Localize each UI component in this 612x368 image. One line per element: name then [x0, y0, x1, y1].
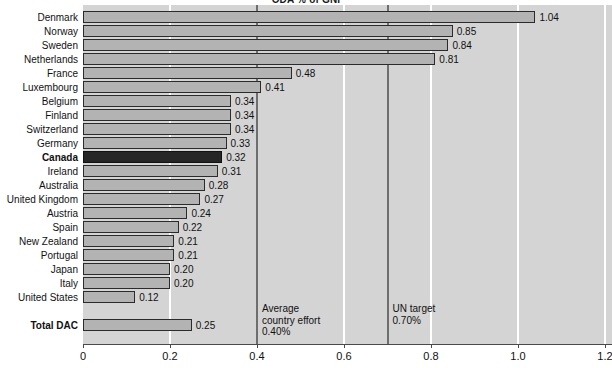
x-tick-label: 0.8 — [423, 350, 438, 362]
bar — [83, 207, 187, 219]
bar-value-label: 0.25 — [196, 319, 215, 332]
bar-row: Switzerland0.34 — [0, 123, 612, 136]
bar-row: Portugal0.21 — [0, 249, 612, 262]
bar-row: Ireland0.31 — [0, 165, 612, 178]
bar-row: Japan0.20 — [0, 263, 612, 276]
bar — [83, 39, 448, 51]
bar-category-label: United Kingdom — [0, 193, 78, 206]
bar-row: Denmark1.04 — [0, 11, 612, 24]
x-tick-mark — [518, 344, 519, 348]
x-tick-label: 0.2 — [162, 350, 177, 362]
bar-row: Luxembourg0.41 — [0, 81, 612, 94]
bar-row: Sweden0.84 — [0, 39, 612, 52]
bar-value-label: 0.81 — [439, 53, 458, 66]
bar-category-label: Luxembourg — [0, 81, 78, 94]
bar-category-label: Ireland — [0, 165, 78, 178]
bar-category-label: United States — [0, 291, 78, 304]
bar-row: France0.48 — [0, 67, 612, 80]
bar-row: Australia0.28 — [0, 179, 612, 192]
bar — [83, 81, 261, 93]
bar — [83, 263, 170, 275]
x-tick-mark — [344, 344, 345, 348]
bar-value-label: 0.33 — [231, 137, 250, 150]
bar — [83, 11, 535, 23]
bar — [83, 319, 192, 331]
bar-category-label: Australia — [0, 179, 78, 192]
bar-value-label: 0.41 — [265, 81, 284, 94]
bar-category-label: Spain — [0, 221, 78, 234]
bar-category-label: Denmark — [0, 11, 78, 24]
annotation-line: country effort — [262, 315, 320, 327]
bar-row: New Zealand0.21 — [0, 235, 612, 248]
bar-category-label: New Zealand — [0, 235, 78, 248]
bar-category-label: Canada — [0, 151, 78, 164]
bar-value-label: 0.34 — [235, 109, 254, 122]
annotation-line: 0.40% — [262, 326, 320, 338]
bar-value-label: 0.22 — [183, 221, 202, 234]
bar-category-label: Germany — [0, 137, 78, 150]
bar-category-label: Norway — [0, 25, 78, 38]
annotation-line: 0.70% — [393, 315, 436, 327]
bar-value-label: 0.31 — [222, 165, 241, 178]
bar — [83, 67, 292, 79]
bar — [83, 277, 170, 289]
bar-value-label: 0.21 — [178, 235, 197, 248]
x-tick-mark — [170, 344, 171, 348]
bar-category-label: Italy — [0, 277, 78, 290]
x-tick-mark — [257, 344, 258, 348]
x-tick-label: 0 — [80, 350, 86, 362]
bar — [83, 235, 174, 247]
bar-category-label: Netherlands — [0, 53, 78, 66]
bar-row: Austria0.24 — [0, 207, 612, 220]
x-tick-mark — [83, 344, 84, 348]
bar-category-label: Total DAC — [0, 319, 78, 332]
bar-value-label: 0.85 — [457, 25, 476, 38]
annotation-line: Average — [262, 303, 320, 315]
bar-row: Germany0.33 — [0, 137, 612, 150]
bar — [83, 137, 227, 149]
bar-value-label: 0.32 — [226, 151, 245, 164]
bar — [83, 123, 231, 135]
x-tick-label: 0.6 — [336, 350, 351, 362]
bar-row: Italy0.20 — [0, 277, 612, 290]
bar-category-label: Japan — [0, 263, 78, 276]
bar — [83, 179, 205, 191]
bar-category-label: Finland — [0, 109, 78, 122]
bar — [83, 193, 200, 205]
annotation-line: UN target — [393, 303, 436, 315]
bar — [83, 291, 135, 303]
x-tick-label: 0.4 — [249, 350, 264, 362]
bar — [83, 95, 231, 107]
chart-title: ODA % of GNI — [0, 0, 612, 5]
bar-value-label: 0.48 — [296, 67, 315, 80]
bar-category-label: France — [0, 67, 78, 80]
bar — [83, 109, 231, 121]
bar-value-label: 0.28 — [209, 179, 228, 192]
bar-value-label: 1.04 — [539, 11, 558, 24]
bar-value-label: 0.20 — [174, 277, 193, 290]
chart-annotation: Averagecountry effort0.40% — [262, 303, 320, 338]
bar-row: Finland0.34 — [0, 109, 612, 122]
bar-category-label: Austria — [0, 207, 78, 220]
bar-chart: ODA % of GNI Denmark1.04Norway0.85Sweden… — [0, 0, 612, 368]
bar-value-label: 0.34 — [235, 95, 254, 108]
x-tick-mark — [605, 344, 606, 348]
bar — [83, 53, 435, 65]
x-axis-line — [83, 344, 612, 345]
bar-row: United Kingdom0.27 — [0, 193, 612, 206]
bar-value-label: 0.21 — [178, 249, 197, 262]
bar — [83, 221, 179, 233]
bar-value-label: 0.12 — [139, 291, 158, 304]
x-tick-label: 1.2 — [597, 350, 612, 362]
bar-value-label: 0.24 — [191, 207, 210, 220]
bar — [83, 25, 453, 37]
bar-row: Canada0.32 — [0, 151, 612, 164]
x-tick-mark — [431, 344, 432, 348]
x-tick-label: 1.0 — [510, 350, 525, 362]
chart-annotation: UN target0.70% — [393, 303, 436, 326]
bar — [83, 165, 218, 177]
bar-value-label: 0.20 — [174, 263, 193, 276]
bar-value-label: 0.34 — [235, 123, 254, 136]
bar-value-label: 0.84 — [452, 39, 471, 52]
bar-category-label: Switzerland — [0, 123, 78, 136]
